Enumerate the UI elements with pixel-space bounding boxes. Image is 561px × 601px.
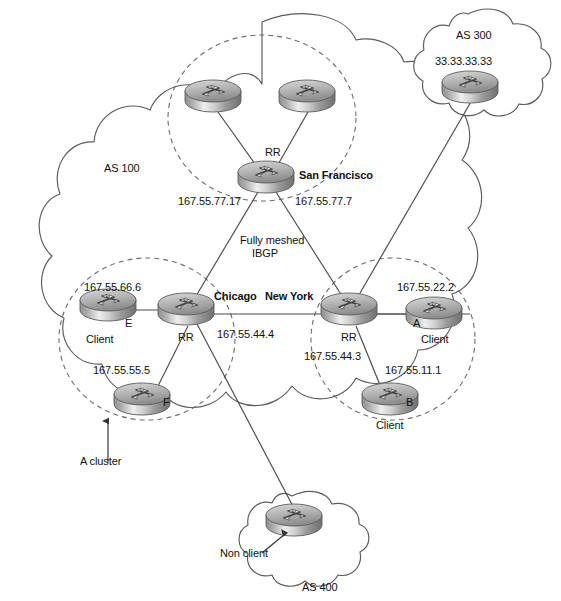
chicago-label: Chicago	[214, 290, 257, 302]
rr-label-new-york: RR	[341, 331, 357, 343]
client-label-b: Client	[376, 419, 404, 431]
rr-label-san-francisco: RR	[265, 146, 281, 158]
router-client-f	[114, 383, 170, 415]
network-diagram-canvas: AS 100 AS 300 33.33.33.33 AS 400 Non cli…	[0, 0, 561, 601]
client-label-a: Client	[421, 333, 449, 345]
router-name-e: E	[125, 317, 132, 329]
router-name-a: A	[413, 317, 420, 329]
as100-label: AS 100	[104, 162, 139, 174]
router-sf-top-right	[279, 80, 335, 112]
a-cluster-label: A cluster	[80, 455, 121, 467]
router-name-b: B	[406, 396, 413, 408]
router-as300	[442, 71, 498, 103]
rr-label-chicago: RR	[178, 331, 194, 343]
fully-meshed-label: Fully meshed	[240, 234, 304, 246]
ip-label-new-york: 167.55.44.3	[304, 350, 361, 362]
router-name-f: F	[163, 396, 170, 408]
as400-label: AS 400	[302, 581, 337, 593]
non-client-label: Non client	[220, 547, 268, 559]
ibgp-label: IBGP	[252, 247, 278, 259]
router-sf-rr	[238, 161, 294, 193]
ip-label-a: 167.55.22.2	[397, 281, 454, 293]
ip-label-f: 167.55.55.5	[93, 364, 150, 376]
ip-label-e: 167.55.66.6	[84, 281, 141, 293]
router-newyork-rr	[321, 293, 377, 325]
ip-label-sf-left: 167.55.77.17	[178, 195, 241, 207]
client-label-e: Client	[86, 333, 114, 345]
ip-label-sf-right: 167.55.77.7	[295, 195, 352, 207]
new-york-label: New York	[265, 290, 313, 302]
router-chicago-rr	[158, 293, 214, 325]
router-as400	[266, 504, 322, 536]
ip-label-chicago: 167.55.44.4	[217, 328, 274, 340]
as300-ip-label: 33.33.33.33	[435, 55, 492, 67]
ip-label-b: 167.55.11.1	[385, 364, 441, 376]
as300-label: AS 300	[456, 29, 491, 41]
router-sf-top-left	[185, 80, 241, 112]
san-francisco-label: San Francisco	[299, 169, 373, 181]
